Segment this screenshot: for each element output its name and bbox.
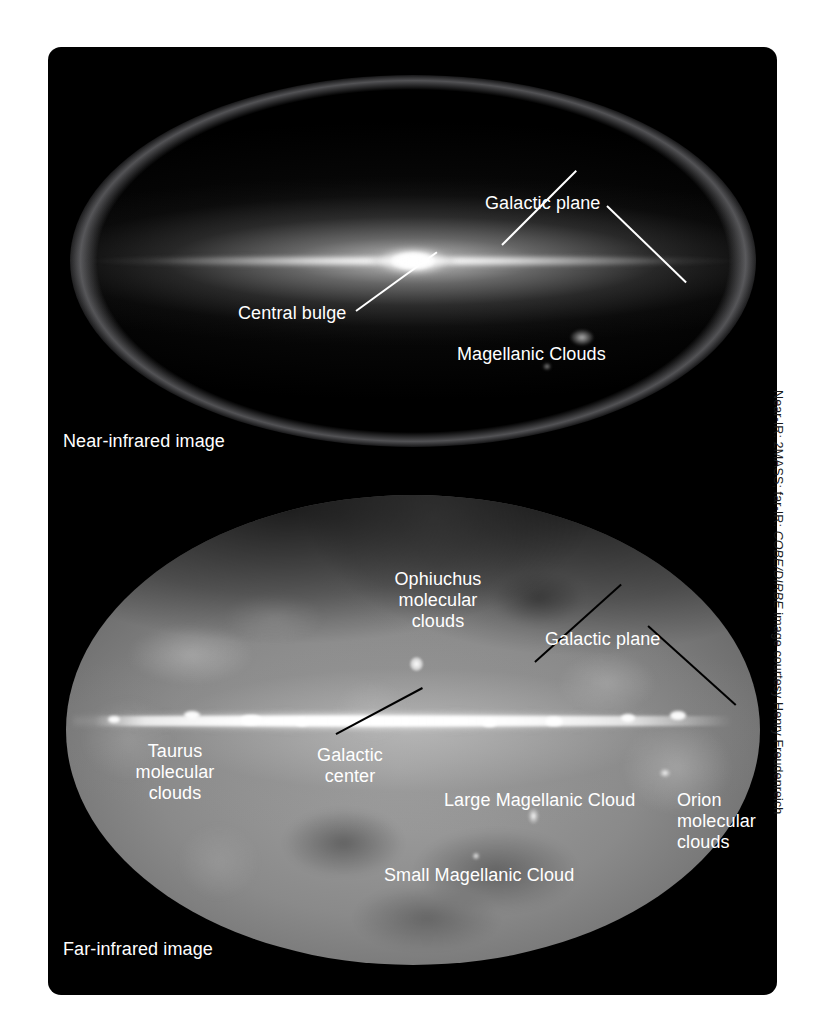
plane-knot (545, 717, 563, 726)
image-credit: Near-IR: 2MASS; far-IR: COBE/DIRBE image… (771, 390, 785, 1010)
near-infrared-panel: Galactic plane Central bulge Magellanic … (48, 47, 777, 477)
credit-suffix: image courtesy Henry Freudenreich (771, 609, 785, 815)
credit-prefix: Near-IR: 2MASS; far-IR: (771, 390, 785, 531)
orion-bright-source (659, 768, 671, 778)
ophiuchus-bright-source (410, 657, 423, 671)
near-label-galactic-plane: Galactic plane (485, 193, 600, 214)
far-label-small-magellanic-cloud: Small Magellanic Cloud (384, 865, 574, 886)
far-label-large-magellanic-cloud: Large Magellanic Cloud (444, 790, 635, 811)
far-label-orion: Orion molecular clouds (677, 790, 756, 853)
far-label-taurus: Taurus molecular clouds (90, 741, 260, 804)
far-infrared-sky-ellipse (66, 495, 760, 965)
astronomy-figure: Galactic plane Central bulge Magellanic … (0, 0, 829, 1033)
credit-italic-source: COBE/DIRBE (771, 531, 785, 609)
far-label-galactic-center: Galactic center (280, 745, 420, 787)
plane-knot (108, 716, 120, 723)
near-label-central-bulge: Central bulge (238, 303, 346, 324)
far-infrared-panel: Ophiuchus molecular clouds Galactic plan… (48, 477, 777, 995)
near-infrared-caption: Near-infrared image (63, 431, 225, 452)
plane-knot (670, 711, 686, 720)
near-infrared-sky-ellipse (70, 75, 756, 447)
plane-knot (295, 718, 309, 726)
far-label-galactic-plane: Galactic plane (545, 629, 660, 650)
near-label-magellanic-clouds: Magellanic Clouds (457, 344, 606, 365)
far-infrared-caption: Far-infrared image (63, 939, 213, 960)
plane-knot (482, 719, 497, 727)
figure-panel: Galactic plane Central bulge Magellanic … (48, 47, 777, 995)
plane-knot (240, 715, 262, 725)
far-label-ophiuchus: Ophiuchus molecular clouds (348, 569, 528, 632)
large-magellanic-cloud-source (571, 330, 593, 345)
